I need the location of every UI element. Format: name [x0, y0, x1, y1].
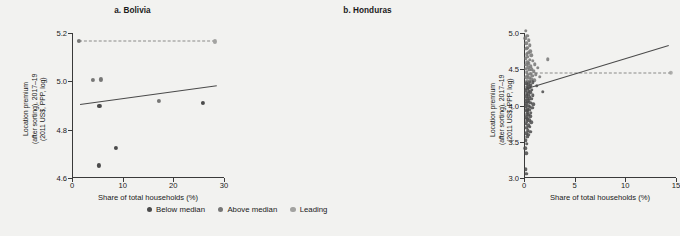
y-tick-label: 4.6 — [56, 174, 67, 183]
x-tick-label: 0 — [522, 181, 526, 190]
x-tick-label: 20 — [169, 181, 177, 190]
data-point — [76, 39, 80, 43]
data-point — [201, 101, 205, 105]
x-tick-label: 0 — [70, 181, 74, 190]
y-tick-label: 3.0 — [508, 174, 519, 183]
data-point — [97, 163, 101, 167]
data-point — [91, 78, 95, 82]
x-tick-label: 10 — [621, 181, 629, 190]
data-point — [524, 152, 528, 156]
legend-swatch-icon — [147, 207, 152, 212]
x-tick-label: 10 — [118, 181, 126, 190]
legend-item: Leading — [290, 205, 327, 214]
legend-swatch-icon — [290, 207, 295, 212]
panel-title-honduras: b. Honduras — [249, 6, 486, 15]
legend: Below medianAbove medianLeading — [0, 205, 474, 214]
data-point — [530, 120, 534, 124]
data-point — [534, 73, 538, 77]
data-point — [524, 147, 528, 151]
data-point — [536, 66, 540, 70]
y-tick-label: 5.0 — [56, 77, 67, 86]
reference-dashed-line — [79, 41, 215, 42]
x-tick-label: 15 — [672, 181, 680, 190]
regression-line — [80, 85, 217, 105]
data-point — [669, 71, 673, 75]
x-tick-label: 30 — [220, 181, 228, 190]
data-point — [113, 146, 117, 150]
data-point — [524, 172, 528, 176]
x-axis-line-bolivia — [72, 177, 224, 178]
plot-area-bolivia: Share of total households (%) 4.64.85.05… — [72, 33, 224, 178]
legend-label: Leading — [300, 205, 328, 214]
panel-title-bolivia: a. Bolivia — [14, 6, 251, 15]
data-point — [213, 39, 217, 43]
y-axis-label-honduras: Location premium (after sorting), 2017–1… — [489, 40, 515, 180]
legend-item: Below median — [147, 205, 205, 214]
data-point — [99, 77, 103, 81]
x-axis-line-honduras — [524, 177, 676, 178]
data-point — [546, 57, 550, 61]
data-point — [524, 29, 528, 33]
panel-honduras: b. Honduras Location premium (after sort… — [237, 0, 474, 200]
legend-label: Below median — [156, 205, 205, 214]
y-tick-label: 4.0 — [508, 101, 519, 110]
data-point — [541, 90, 545, 94]
y-tick — [520, 33, 524, 34]
x-tick-label: 5 — [573, 181, 577, 190]
plot-area-honduras: Share of total households (%) 3.03.54.04… — [524, 33, 676, 178]
legend-item: Above median — [218, 205, 277, 214]
data-point — [538, 75, 542, 79]
legend-label: Above median — [227, 205, 277, 214]
y-tick-label: 3.5 — [508, 137, 519, 146]
legend-swatch-icon — [218, 207, 223, 212]
y-tick — [68, 33, 72, 34]
y-axis-line-bolivia — [72, 33, 73, 178]
y-tick — [68, 81, 72, 82]
y-tick — [68, 130, 72, 131]
y-tick-label: 4.8 — [56, 125, 67, 134]
data-point — [525, 142, 529, 146]
x-axis-label-honduras: Share of total households (%) — [524, 193, 676, 202]
y-axis-label-bolivia: Location premium (after sorting), 2017–1… — [22, 44, 48, 174]
data-point — [157, 99, 161, 103]
y-tick-label: 5.0 — [508, 29, 519, 38]
data-point — [529, 54, 533, 58]
y-tick-label: 5.2 — [56, 29, 67, 38]
regression-line — [527, 45, 669, 89]
data-point — [524, 168, 528, 172]
y-tick-label: 4.5 — [508, 65, 519, 74]
reference-dashed-line — [530, 72, 671, 73]
x-axis-label-bolivia: Share of total households (%) — [72, 193, 224, 202]
data-point — [97, 104, 101, 108]
panel-bolivia: a. Bolivia Location premium (after sorti… — [0, 0, 237, 200]
data-point — [535, 84, 539, 88]
